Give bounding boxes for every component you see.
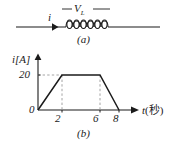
x-tick-label-2: 2 bbox=[55, 113, 61, 124]
current-time-graph bbox=[35, 54, 139, 114]
panel-b-caption: (b) bbox=[77, 128, 90, 139]
y-tick-label-20: 20 bbox=[19, 69, 30, 80]
circuit-diagram bbox=[16, 9, 160, 31]
physics-figure: VL i (a) i[A] 20 0 2 6 8 t(秒) (b) bbox=[0, 0, 172, 146]
inductor-coil-icon bbox=[66, 20, 108, 28]
current-waveform-trace bbox=[38, 75, 119, 110]
current-arrow-icon bbox=[52, 23, 59, 31]
x-axis-label: t(秒) bbox=[142, 105, 163, 116]
x-tick-label-6: 6 bbox=[93, 113, 99, 124]
x-tick-label-8: 8 bbox=[113, 113, 119, 124]
panel-a-caption: (a) bbox=[77, 34, 90, 45]
current-label: i bbox=[48, 12, 51, 23]
y-axis-arrow-icon bbox=[35, 54, 42, 61]
x-axis-arrow-icon bbox=[131, 107, 139, 114]
origin-label: 0 bbox=[29, 104, 35, 115]
inductor-voltage-label: VL bbox=[74, 3, 85, 17]
y-axis-label: i[A] bbox=[12, 54, 30, 65]
